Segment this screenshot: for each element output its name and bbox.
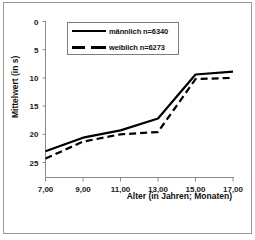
legend-item-weiblich: weiblich n=6273 [68,39,178,55]
y-tick-label: 10 [30,74,39,83]
legend-label-maennlich: männlich n=6340 [109,27,168,36]
y-tick-label: 0 [34,18,39,27]
x-tick-label: 7,00 [38,185,54,194]
legend-swatch-solid-icon [72,26,106,36]
y-axis-title: Mittelwert (in s) [10,55,20,118]
legend-item-maennlich: männlich n=6340 [68,23,178,39]
y-tick-label: 20 [30,130,39,139]
series-line-weiblich [46,78,234,159]
series-line-maennlich [46,72,234,152]
chart-figure: 0510152025 7,009,0011,0013,0015,0017,00 … [0,0,255,240]
y-tick-label: 5 [34,46,39,55]
x-axis-ticks [46,178,234,182]
legend-label-weiblich: weiblich n=6273 [109,43,165,52]
y-tick-label: 15 [30,102,39,111]
y-tick-label: 25 [30,159,39,168]
chart-legend: männlich n=6340 weiblich n=6273 [67,22,179,55]
x-axis-title: Alter (in Jahren; Monaten) [127,191,232,201]
y-axis-tick-labels: 0510152025 [30,18,39,168]
legend-swatch-dashed-icon [72,42,106,52]
x-tick-label: 9,00 [75,185,91,194]
